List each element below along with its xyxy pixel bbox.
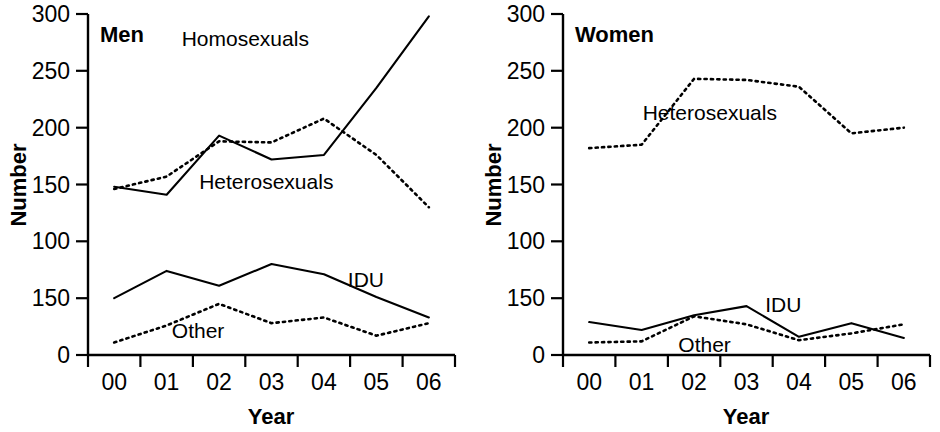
x-axis-title: Year [248, 404, 295, 429]
y-tick-label-3: 150 [32, 172, 70, 198]
y-tick-label-3: 150 [507, 172, 545, 198]
y-tick-label-1: 150 [32, 285, 70, 311]
chart-panel-men: 300 250 200 150 100 150 0 Number [0, 0, 470, 432]
x-tick-label-1: 01 [629, 369, 655, 395]
panel-title-women: Women [575, 22, 654, 47]
y-tick-labels: 300 250 200 150 100 150 0 [507, 1, 545, 368]
y-axis-title: Number [481, 143, 506, 227]
x-tick-label-2: 02 [681, 369, 707, 395]
series-label-homosexuals-men: Homosexuals [182, 27, 309, 50]
series-label-idu-men: IDU [348, 268, 384, 291]
x-tick-label-0: 00 [101, 369, 127, 395]
series-label-heterosexuals-men: Heterosexuals [199, 170, 333, 193]
x-tick-label-5: 05 [839, 369, 865, 395]
series-labels-men: Homosexuals Heterosexuals IDU Other [172, 27, 384, 342]
y-tick-label-4: 200 [507, 115, 545, 141]
y-tick-label-0: 0 [532, 342, 545, 368]
y-tick-label-6: 300 [32, 1, 70, 27]
y-ticks [551, 14, 563, 355]
y-axis-women: 300 250 200 150 100 150 0 Number [481, 1, 563, 368]
x-tick-label-0: 00 [576, 369, 602, 395]
y-axis-men: 300 250 200 150 100 150 0 Number [6, 1, 88, 368]
x-tick-label-5: 05 [364, 369, 390, 395]
y-ticks [76, 14, 88, 355]
y-tick-label-6: 300 [507, 1, 545, 27]
y-axis-title: Number [6, 143, 31, 227]
x-tick-label-4: 04 [786, 369, 812, 395]
x-tick-label-6: 06 [891, 369, 917, 395]
panel-title-men: Men [100, 22, 144, 47]
x-tick-label-3: 03 [734, 369, 760, 395]
series-label-other-women: Other [678, 333, 731, 356]
x-ticks [88, 355, 455, 367]
chart-panel-women: 300 250 200 150 100 150 0 Number [470, 0, 940, 432]
y-tick-label-5: 250 [507, 58, 545, 84]
x-tick-label-1: 01 [154, 369, 180, 395]
x-tick-labels: 00 01 02 03 04 05 06 [576, 369, 916, 395]
y-tick-label-1: 150 [507, 285, 545, 311]
x-tick-label-2: 02 [206, 369, 232, 395]
x-tick-label-3: 03 [259, 369, 285, 395]
series-line-other-men [114, 304, 429, 343]
x-axis-men: 00 01 02 03 04 05 06 Year [88, 355, 455, 429]
x-axis-title: Year [723, 404, 770, 429]
x-tick-label-6: 06 [416, 369, 442, 395]
y-tick-label-4: 200 [32, 115, 70, 141]
y-tick-label-2: 100 [507, 228, 545, 254]
series-label-heterosexuals-women: Heterosexuals [643, 101, 777, 124]
x-ticks [563, 355, 930, 367]
x-tick-labels: 00 01 02 03 04 05 06 [101, 369, 441, 395]
y-tick-label-2: 100 [32, 228, 70, 254]
figure-root: 300 250 200 150 100 150 0 Number [0, 0, 940, 432]
series-labels-women: Heterosexuals IDU Other [643, 101, 802, 356]
chart-svg-women: 300 250 200 150 100 150 0 Number [470, 0, 940, 432]
y-tick-label-5: 250 [32, 58, 70, 84]
x-tick-label-4: 04 [311, 369, 337, 395]
series-label-idu-women: IDU [765, 293, 801, 316]
x-axis-women: 00 01 02 03 04 05 06 Year [563, 355, 930, 429]
y-tick-label-0: 0 [57, 342, 70, 368]
y-tick-labels: 300 250 200 150 100 150 0 [32, 1, 70, 368]
series-label-other-men: Other [172, 319, 225, 342]
chart-svg-men: 300 250 200 150 100 150 0 Number [0, 0, 470, 432]
